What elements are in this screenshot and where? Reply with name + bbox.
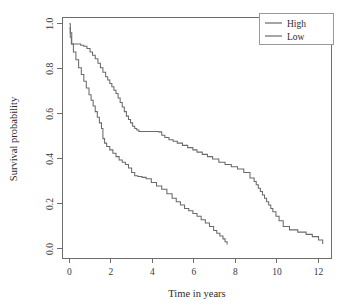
x-tick-label: 0 xyxy=(67,267,72,277)
x-tick-label: 12 xyxy=(314,267,324,277)
y-tick-label: 1.0 xyxy=(45,18,55,30)
x-tick-label: 2 xyxy=(108,267,113,277)
x-tick-label: 10 xyxy=(272,267,282,277)
y-tick-label: 0.2 xyxy=(45,198,55,210)
chart-canvas: 024681012 0.00.20.40.60.81.0 Time in yea… xyxy=(0,0,346,308)
x-tick-label: 8 xyxy=(233,267,238,277)
y-tick-label: 0.4 xyxy=(45,153,55,165)
x-tick-label: 6 xyxy=(192,267,197,277)
legend-label-high: High xyxy=(287,19,306,29)
x-axis-title: Time in years xyxy=(168,288,225,299)
y-axis-title: Survival probability xyxy=(8,96,19,181)
x-tick-label: 4 xyxy=(150,267,155,277)
y-tick-label: 0.8 xyxy=(45,63,55,75)
y-tick-label: 0.0 xyxy=(45,243,55,255)
legend-label-low: Low xyxy=(287,32,305,42)
survival-curve-figure: 024681012 0.00.20.40.60.81.0 Time in yea… xyxy=(0,0,346,308)
y-tick-label: 0.6 xyxy=(45,108,55,120)
chart-legend: High Low xyxy=(260,14,334,45)
